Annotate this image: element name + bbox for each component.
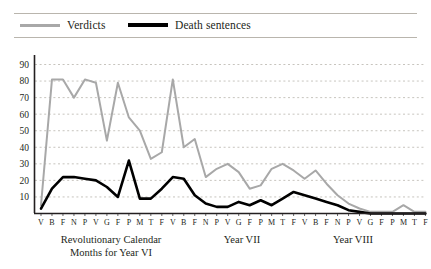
x-tick-label: F [247, 218, 252, 227]
legend-item-verdicts: Verdicts [20, 17, 105, 33]
x-tick-label: F [61, 218, 66, 227]
x-tick-label: V [38, 218, 44, 227]
line-swatch-gray-icon [20, 24, 60, 27]
x-tick-label: N [203, 218, 209, 227]
x-tick-label: F [291, 218, 296, 227]
x-tick-label: V [225, 218, 231, 227]
x-tick-label: F [193, 218, 198, 227]
x-tick-label: P [215, 218, 220, 227]
x-tick-label: V [170, 218, 176, 227]
legend-bottom-rule [14, 37, 417, 38]
y-tick-label: 90 [20, 60, 30, 70]
legend-label-verdicts: Verdicts [67, 19, 105, 31]
x-tick-label: G [236, 218, 242, 227]
gridlines [35, 65, 424, 197]
axis-caption-year-vi: Revolutionary Calendar Months for Year V… [46, 234, 176, 259]
legend-top-rule [14, 13, 417, 14]
y-tick-label: 40 [20, 143, 30, 153]
x-axis-tick-labels: VBFNPVGFPMTFVBFNPVGFPMTFVBFNPVGFPMTF [38, 218, 428, 227]
y-axis-tick-labels: 102030405060708090 [20, 60, 30, 202]
axis-caption-year-vi-line1: Revolutionary Calendar [61, 234, 162, 245]
x-tick-label: T [280, 218, 285, 227]
x-tick-label: P [258, 218, 263, 227]
x-tick-label: P [83, 218, 88, 227]
x-tick-label: F [160, 218, 165, 227]
axis-caption-year-vi-line2: Months for Year VI [46, 247, 176, 260]
y-tick-label: 80 [20, 76, 30, 86]
y-tick-label: 60 [20, 110, 30, 120]
y-tick-label: 30 [20, 159, 30, 169]
x-tick-label: N [335, 218, 341, 227]
x-tick-label: M [136, 218, 143, 227]
y-tick-label: 20 [20, 176, 30, 186]
x-tick-label: N [71, 218, 77, 227]
x-tick-label: P [127, 218, 132, 227]
x-tick-label: T [412, 218, 417, 227]
x-tick-label: T [148, 218, 153, 227]
y-tick-label: 70 [20, 93, 30, 103]
chart-figure: Verdicts Death sentences 102030405060708… [0, 0, 431, 269]
y-tick-label: 10 [20, 192, 30, 202]
x-tick-label: B [49, 218, 54, 227]
x-tick-label: P [346, 218, 351, 227]
x-tick-label: B [313, 218, 318, 227]
axis-caption-year-vii: Year VII [212, 234, 272, 247]
legend-label-death-sentences: Death sentences [175, 19, 251, 31]
legend-item-death-sentences: Death sentences [128, 17, 251, 33]
x-tick-label: G [104, 218, 110, 227]
x-tick-label: V [302, 218, 308, 227]
x-tick-label: G [368, 218, 374, 227]
x-tick-label: V [357, 218, 363, 227]
x-tick-label: M [400, 218, 407, 227]
y-tick-label: 50 [20, 126, 30, 136]
x-tick-label: F [116, 218, 121, 227]
x-tick-label: V [93, 218, 99, 227]
line-swatch-black-icon [128, 23, 168, 27]
x-tick-label: F [379, 218, 384, 227]
x-tick-label: P [390, 218, 395, 227]
x-tick-label: M [268, 218, 275, 227]
x-tick-label: F [324, 218, 329, 227]
series-line-verdicts [41, 79, 425, 211]
plot-area: 102030405060708090 VBFNPVGFPMTFVBFNPVGFP… [0, 42, 431, 234]
x-tick-label: B [181, 218, 186, 227]
series-layer [41, 79, 425, 213]
axis-caption-year-viii: Year VIII [318, 234, 388, 247]
x-tick-label: F [423, 218, 428, 227]
